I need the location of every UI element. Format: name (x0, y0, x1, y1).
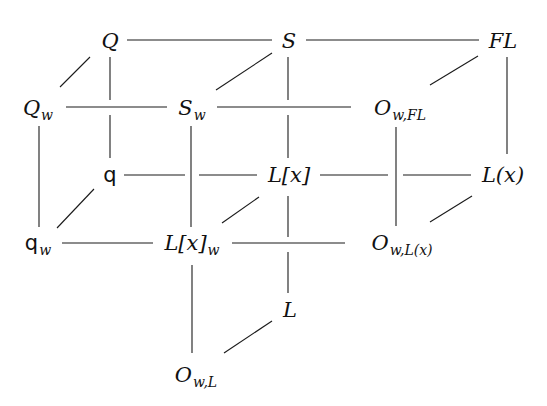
node-label: L(x) (482, 163, 524, 187)
edge-Lx-Lxw (222, 197, 259, 223)
node-Q: Q (101, 31, 118, 52)
node-subscript: w,FL (392, 107, 426, 123)
node-Sw: Sw (178, 98, 205, 119)
node-label: Q (23, 96, 40, 120)
edge-Q-Qw (60, 57, 90, 87)
edge-Lpx-OwLx (430, 196, 472, 222)
node-OwFL: Ow,FL (374, 98, 426, 119)
node-L: L (283, 300, 297, 321)
node-label: L[x] (268, 163, 310, 187)
node-Qw: Qw (23, 98, 53, 119)
node-OwL: Ow,L (175, 365, 217, 386)
node-Lx: L[x] (268, 165, 310, 186)
node-label: FL (489, 29, 518, 53)
node-Lxw: L[x]w (164, 233, 219, 254)
node-subscript: w (194, 107, 206, 123)
node-label: L (283, 298, 297, 322)
node-qw: qw (25, 233, 51, 254)
node-label: L[x] (164, 231, 206, 255)
edge-FL-OwFL (430, 56, 478, 85)
diagram-canvas: Q S FL Qw Sw Ow,FL q L[x] L(x) qw L[x]w … (0, 0, 547, 406)
node-subscript: w,L (193, 374, 217, 390)
node-label: q (103, 163, 116, 187)
node-subscript: w (39, 242, 51, 258)
diagram-edges (0, 0, 547, 406)
edge-q-qw (57, 189, 94, 228)
node-label: O (175, 363, 192, 387)
node-q: q (103, 165, 116, 186)
node-OwLx: Ow,L(x) (371, 233, 432, 254)
node-subscript: w,L(x) (390, 242, 433, 258)
node-Lpx: L(x) (482, 165, 524, 186)
node-FL: FL (489, 31, 518, 52)
node-S: S (282, 31, 296, 52)
node-subscript: w (41, 107, 53, 123)
edge-S-Sw (216, 53, 272, 90)
edge-L-OwL (224, 321, 272, 353)
node-label: O (371, 231, 388, 255)
node-label: S (178, 96, 192, 120)
node-label: S (282, 29, 296, 53)
node-label: O (374, 96, 391, 120)
node-label: Q (101, 29, 118, 53)
node-label: q (25, 231, 38, 255)
node-subscript: w (208, 242, 220, 258)
